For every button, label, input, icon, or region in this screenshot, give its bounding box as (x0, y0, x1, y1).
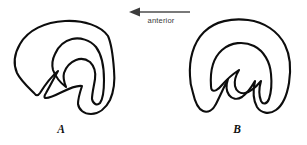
inner-contour-a (52, 38, 104, 104)
arrow-head-icon (129, 8, 140, 17)
panel-label-b: B (232, 123, 241, 135)
panel-label-a: A (56, 123, 65, 135)
anterior-label: anterior (148, 16, 175, 25)
figure-canvas: anterior A B (0, 0, 307, 145)
outer-contour-b (190, 19, 290, 112)
specimen-outline-a (15, 21, 115, 114)
specimen-outline-b (190, 19, 290, 112)
figure-container: anterior A B (0, 0, 307, 145)
outer-contour-a (15, 21, 115, 114)
anterior-arrow-group: anterior (129, 8, 190, 26)
